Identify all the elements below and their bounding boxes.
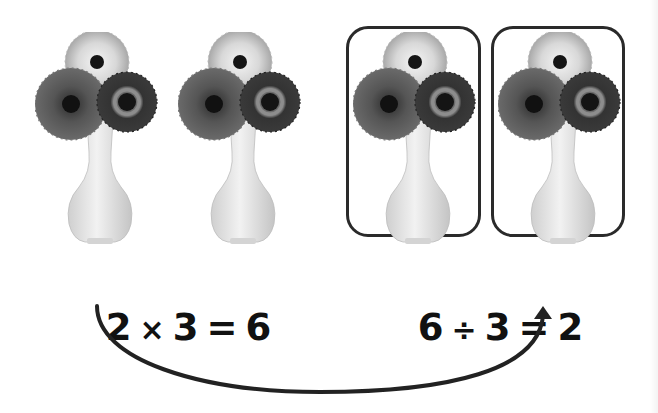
flower-vase-3: [353, 32, 483, 242]
product: 6: [245, 306, 271, 350]
quotient: 2: [557, 306, 583, 350]
factor-b: 3: [173, 306, 199, 350]
divide-operator: ÷: [452, 308, 477, 352]
division-equation: 6÷3=2: [392, 262, 583, 352]
flower-vase-4: [498, 32, 628, 242]
flower-vase-icon: [498, 32, 628, 247]
flower-vase-icon: [178, 32, 308, 247]
equals-sign: =: [206, 306, 237, 350]
divisor: 3: [485, 306, 511, 350]
multiply-operator: ×: [140, 308, 165, 352]
right-edge-strip: [650, 0, 658, 413]
dividend: 6: [418, 306, 444, 350]
factor-a: 2: [106, 306, 132, 350]
equals-sign: =: [518, 306, 549, 350]
flower-vase-1: [35, 32, 165, 242]
flower-vase-icon: [353, 32, 483, 247]
flower-vase-icon: [35, 32, 165, 247]
multiplication-equation: 2×3=6: [80, 262, 271, 352]
flower-vase-2: [178, 32, 308, 242]
